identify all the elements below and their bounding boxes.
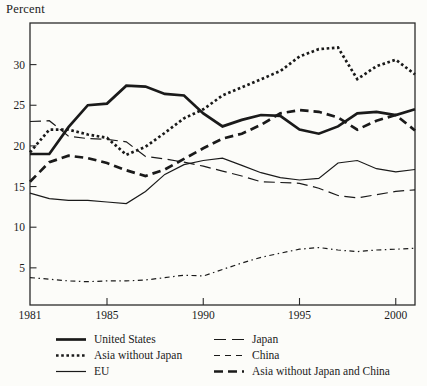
y-tick-label: 5 bbox=[19, 262, 25, 274]
legend-label: Japan bbox=[252, 332, 278, 346]
legend-swatch-dotted-thick bbox=[55, 351, 87, 360]
x-tick-label: 1985 bbox=[96, 309, 119, 321]
legend-swatch-solid-thick bbox=[55, 335, 87, 344]
legend-item-united-states: United States bbox=[55, 332, 156, 346]
legend-swatch-shortdash-thin bbox=[213, 351, 245, 360]
legend-label: Asia without Japan and China bbox=[252, 364, 390, 378]
legend-label: EU bbox=[94, 364, 109, 378]
legend-label: China bbox=[252, 348, 279, 362]
legend-item-china: China bbox=[213, 348, 279, 362]
y-tick-label: 10 bbox=[14, 221, 26, 233]
line-asia-without-japan bbox=[30, 48, 415, 155]
legend-label: Asia without Japan bbox=[94, 348, 182, 362]
x-tick-label: 1990 bbox=[192, 309, 215, 321]
y-tick-label: 15 bbox=[14, 181, 26, 193]
legend-item-asia-without-japan: Asia without Japan bbox=[55, 348, 182, 362]
line-united-states bbox=[30, 86, 415, 154]
x-tick-label: 1995 bbox=[288, 309, 311, 321]
legend-item-eu: EU bbox=[55, 364, 109, 378]
figure-line-chart-page: Percent 5101520253019811985199019952000 … bbox=[0, 0, 427, 386]
line-eu bbox=[30, 158, 415, 204]
y-tick-label: 20 bbox=[14, 140, 26, 152]
legend-swatch-longdash-thick bbox=[213, 367, 245, 376]
y-tick-label: 30 bbox=[14, 59, 26, 71]
line-japan bbox=[30, 121, 415, 198]
x-tick-label: 2000 bbox=[384, 309, 407, 321]
legend-label: United States bbox=[94, 332, 156, 346]
legend-swatch-solid-thin bbox=[55, 367, 87, 376]
x-tick-label: 1981 bbox=[19, 309, 42, 321]
y-tick-label: 25 bbox=[14, 99, 26, 111]
legend-item-japan: Japan bbox=[213, 332, 278, 346]
line-chart-canvas: 5101520253019811985199019952000 bbox=[0, 0, 427, 326]
plot-frame bbox=[30, 23, 415, 305]
legend-swatch-longdash-thin bbox=[213, 335, 245, 344]
legend-item-asia-without-japan-and-china: Asia without Japan and China bbox=[213, 364, 390, 378]
line-china bbox=[30, 248, 415, 282]
